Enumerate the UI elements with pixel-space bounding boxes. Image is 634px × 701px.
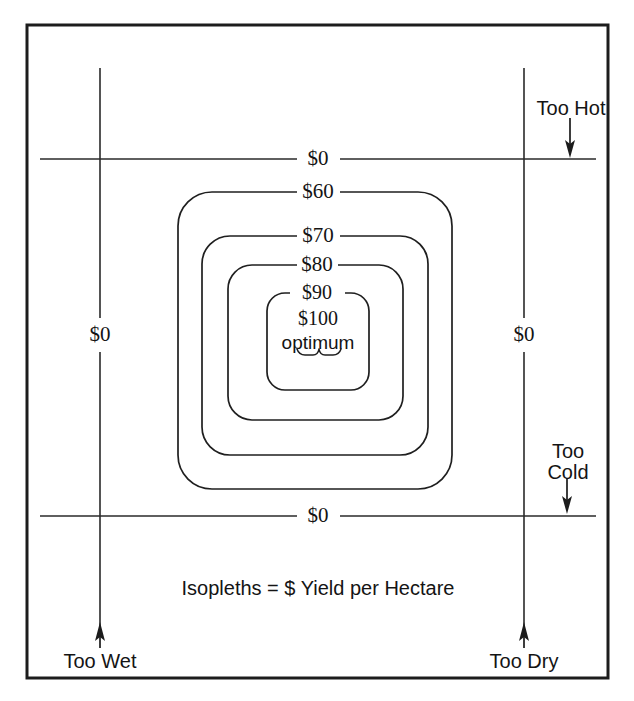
too-hot-label: Too Hot <box>537 97 606 119</box>
optimum-label: optimum <box>282 332 355 353</box>
contour-label-100: $100 <box>298 307 338 329</box>
zero-label-bottom: $0 <box>308 503 329 527</box>
isopleth-diagram: $0 $0 $0 $0 $60 $70 $80 $90 $100 optimum… <box>0 0 634 701</box>
figure-caption: Isopleths = $ Yield per Hectare <box>182 577 455 599</box>
zero-label-left: $0 <box>90 322 111 346</box>
too-cold-label-line2: Cold <box>547 461 588 483</box>
contour-label-90: $90 <box>302 281 332 303</box>
contour-label-60: $60 <box>302 179 334 203</box>
too-dry-label: Too Dry <box>490 650 559 672</box>
isopleth-figure: $0 $0 $0 $0 $60 $70 $80 $90 $100 optimum… <box>0 0 634 701</box>
contour-label-70: $70 <box>302 223 334 247</box>
zero-label-right: $0 <box>514 322 535 346</box>
too-wet-label: Too Wet <box>64 650 137 672</box>
too-cold-label-line1: Too <box>552 440 584 462</box>
contour-label-80: $80 <box>301 252 333 276</box>
zero-label-top: $0 <box>308 146 329 170</box>
